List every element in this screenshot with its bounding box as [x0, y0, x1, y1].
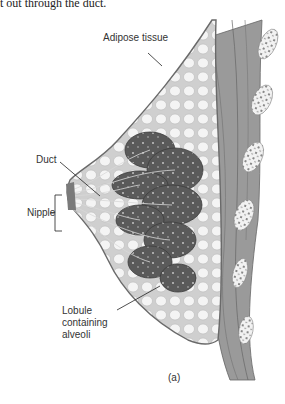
label-adipose-tissue: Adipose tissue — [103, 32, 168, 44]
label-nipple: Nipple — [27, 207, 55, 219]
label-lobule-line3: alveoli — [62, 329, 90, 341]
label-lobule-line1: Lobule — [62, 305, 92, 317]
subfigure-label: (a) — [168, 372, 180, 383]
label-lobule-line2: containing — [62, 317, 108, 329]
breast-anatomy-illustration — [0, 0, 285, 404]
label-duct: Duct — [36, 154, 57, 166]
